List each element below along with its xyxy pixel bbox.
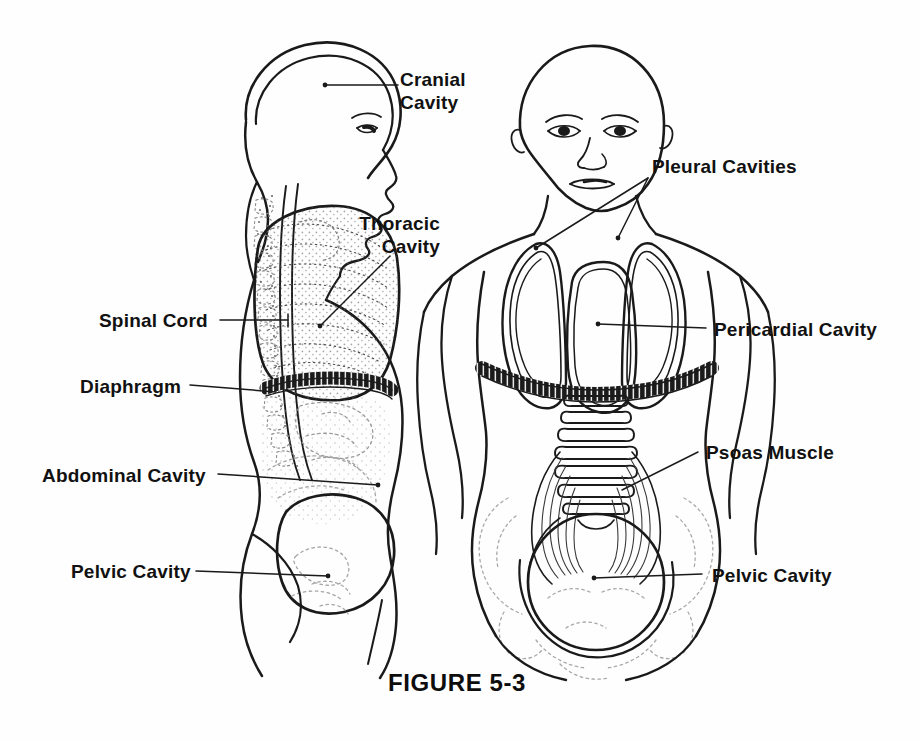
- label-cranial-cavity: Cranial Cavity: [400, 68, 466, 114]
- label-spinal-cord: Spinal Cord: [99, 309, 208, 332]
- lateral-figure: [240, 43, 410, 678]
- label-pericardial-cavity: Pericardial Cavity: [714, 318, 877, 341]
- figure-caption: FIGURE 5-3: [388, 669, 526, 697]
- label-pelvic-cavity-lateral: Pelvic Cavity: [71, 560, 191, 583]
- figure-page: Cranial Cavity Thoracic Cavity Spinal Co…: [0, 0, 920, 741]
- label-pelvic-cavity-anterior: Pelvic Cavity: [712, 564, 832, 587]
- label-diaphragm: Diaphragm: [80, 375, 181, 398]
- label-thoracic-cavity: Thoracic Cavity: [300, 212, 440, 258]
- label-psoas-muscle: Psoas Muscle: [706, 441, 834, 464]
- label-pleural-cavities: Pleural Cavities: [652, 155, 797, 178]
- label-abdominal-cavity: Abdominal Cavity: [42, 464, 206, 487]
